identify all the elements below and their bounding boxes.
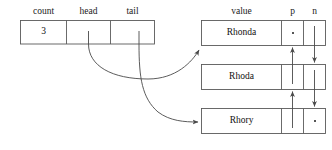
null-dot-icon-rhory-next bbox=[314, 120, 316, 122]
tail-pointer-arrow bbox=[139, 31, 198, 122]
header-label-tail: tail bbox=[110, 6, 155, 17]
node-header-label-n: n bbox=[303, 6, 326, 17]
header-label-count: count bbox=[20, 6, 67, 17]
linked-list-diagram: count head tail 3 value p n Rhonda Rhoda… bbox=[0, 0, 332, 150]
null-dot-icon-rhonda-prev bbox=[292, 32, 294, 34]
node-value-rhoda: Rhoda bbox=[201, 71, 282, 82]
node-value-rhory: Rhory bbox=[201, 115, 282, 126]
header-value-count: 3 bbox=[20, 26, 67, 37]
diagram-vector-layer bbox=[0, 0, 332, 150]
head-pointer-arrow bbox=[89, 31, 200, 79]
node-value-rhonda: Rhonda bbox=[201, 27, 282, 38]
header-label-head: head bbox=[66, 6, 111, 17]
node-header-label-p: p bbox=[281, 6, 304, 17]
node-header-label-value: value bbox=[201, 6, 282, 17]
